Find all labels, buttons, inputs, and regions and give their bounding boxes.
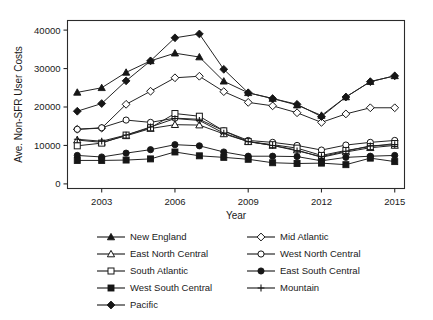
legend-item-mid-atlantic[interactable]: Mid Atlantic	[246, 230, 396, 244]
y-tick-label: 0	[55, 178, 60, 189]
marker-filled-circle	[270, 153, 276, 159]
legend-key-filled-circle	[246, 264, 276, 278]
marker-filled-circle	[123, 150, 129, 156]
legend-item-new-england[interactable]: New England	[96, 230, 246, 244]
legend-key-open-diamond	[246, 230, 276, 244]
marker-filled-square	[367, 155, 373, 161]
marker-open-square	[108, 268, 114, 274]
legend-label: West North Central	[280, 249, 361, 259]
marker-filled-square	[245, 156, 251, 162]
legend-label: East South Central	[280, 266, 360, 276]
legend-label: South Atlantic	[130, 266, 188, 276]
marker-filled-square	[392, 159, 398, 165]
legend-key-open-circle	[246, 247, 276, 261]
marker-filled-square	[99, 157, 105, 163]
x-tick-label: 2012	[311, 196, 332, 207]
marker-filled-square	[318, 160, 324, 166]
marker-open-diamond	[171, 74, 179, 82]
marker-open-diamond	[147, 87, 155, 95]
marker-filled-square	[123, 157, 129, 163]
chart-legend: New EnglandMid AtlanticEast North Centra…	[96, 228, 396, 313]
chart-figure: 0100002000030000400002003200620092012201…	[0, 0, 433, 320]
marker-open-diamond	[366, 104, 374, 112]
marker-filled-square	[108, 285, 114, 291]
marker-plus	[258, 284, 265, 291]
legend-item-mountain[interactable]: Mountain	[246, 281, 396, 295]
marker-open-diamond	[244, 98, 252, 106]
marker-filled-triangle	[171, 50, 178, 56]
y-tick-label: 10000	[34, 140, 60, 151]
marker-filled-diamond	[107, 301, 115, 309]
marker-filled-circle	[392, 152, 398, 158]
legend-label: Mountain	[280, 283, 319, 293]
legend-label: Pacific	[130, 300, 158, 310]
marker-filled-triangle	[123, 69, 130, 75]
x-tick-label: 2009	[238, 196, 259, 207]
marker-filled-diamond	[195, 30, 203, 38]
y-tick-label: 40000	[34, 25, 60, 36]
legend-label: West South Central	[130, 283, 212, 293]
marker-filled-square	[294, 161, 300, 167]
legend-item-east-north-central[interactable]: East North Central	[96, 247, 246, 261]
marker-filled-circle	[343, 154, 349, 160]
legend-item-west-south-central[interactable]: West South Central	[96, 281, 246, 295]
marker-open-diamond	[220, 88, 228, 96]
marker-filled-circle	[147, 147, 153, 153]
y-tick-label: 30000	[34, 63, 60, 74]
legend-item-pacific[interactable]: Pacific	[96, 298, 246, 312]
marker-open-diamond	[293, 109, 301, 117]
y-axis-title: Ave. Non-SFR User Costs	[13, 46, 24, 163]
legend-label: Mid Atlantic	[280, 232, 329, 242]
marker-filled-circle	[294, 153, 300, 159]
marker-filled-circle	[196, 143, 202, 149]
marker-open-circle	[258, 250, 264, 256]
legend-item-south-atlantic[interactable]: South Atlantic	[96, 264, 246, 278]
marker-open-circle	[123, 117, 129, 123]
marker-open-circle	[99, 125, 105, 131]
marker-open-circle	[74, 126, 80, 132]
marker-filled-triangle	[98, 84, 105, 90]
marker-filled-square	[74, 157, 80, 163]
legend-key-filled-square	[96, 281, 126, 295]
legend-label: New England	[130, 232, 187, 242]
x-tick-label: 2006	[164, 196, 185, 207]
x-tick-label: 2003	[91, 196, 112, 207]
marker-open-diamond	[269, 102, 277, 110]
plot-frame	[68, 21, 405, 189]
legend-key-plus	[246, 281, 276, 295]
marker-open-square	[74, 143, 80, 149]
x-tick-label: 2015	[384, 196, 405, 207]
marker-filled-circle	[258, 267, 264, 273]
legend-key-filled-triangle	[96, 230, 126, 244]
marker-filled-circle	[172, 142, 178, 148]
x-axis-title: Year	[226, 210, 247, 221]
marker-filled-diamond	[73, 107, 81, 115]
marker-filled-square	[148, 156, 154, 162]
legend-item-east-south-central[interactable]: East South Central	[246, 264, 396, 278]
marker-filled-square	[343, 162, 349, 168]
marker-filled-square	[221, 154, 227, 160]
marker-filled-square	[172, 149, 178, 155]
marker-open-diamond	[195, 72, 203, 80]
legend-label: East North Central	[130, 249, 208, 259]
marker-open-diamond	[257, 233, 265, 241]
marker-filled-square	[196, 153, 202, 159]
legend-key-filled-diamond	[96, 298, 126, 312]
legend-key-open-square	[96, 264, 126, 278]
marker-filled-square	[270, 160, 276, 166]
y-tick-label: 20000	[34, 101, 60, 112]
legend-item-west-north-central[interactable]: West North Central	[246, 247, 396, 261]
legend-key-open-triangle	[96, 247, 126, 261]
marker-open-diamond	[391, 104, 399, 112]
marker-open-diamond	[342, 110, 350, 118]
